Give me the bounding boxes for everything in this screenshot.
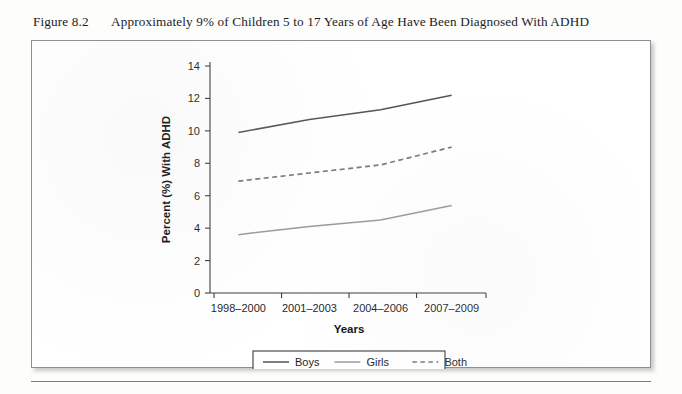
y-tick-label: 10 — [188, 125, 200, 137]
series-line-boys — [238, 95, 451, 132]
legend-label-both: Both — [444, 356, 467, 368]
y-axis-title: Percent (%) With ADHD — [160, 116, 172, 243]
chart-legend: BoysGirlsBoth — [253, 351, 467, 369]
x-tick-label: 2001–2003 — [282, 302, 337, 314]
y-tick-label: 6 — [194, 190, 200, 202]
x-axis-title: Years — [334, 323, 365, 335]
series-line-both — [238, 147, 451, 181]
chart-area: 02468101214 1998–20002001–20032004–20062… — [32, 41, 652, 369]
y-tick-label: 14 — [188, 60, 200, 72]
adhd-line-chart: 02468101214 1998–20002001–20032004–20062… — [32, 41, 652, 369]
figure-panel: 02468101214 1998–20002001–20032004–20062… — [31, 40, 651, 368]
x-axis-ticks: 1998–20002001–20032004–20062007–2009 — [211, 293, 486, 314]
legend-box — [253, 351, 445, 369]
x-tick-label: 2007–2009 — [424, 302, 479, 314]
series-line-girls — [238, 205, 451, 234]
y-axis-ticks: 02468101214 — [188, 60, 210, 299]
y-tick-label: 2 — [194, 255, 200, 267]
footer-rule — [31, 381, 651, 382]
figure-caption: Figure 8.2Approximately 9% of Children 5… — [33, 14, 653, 40]
legend-label-girls: Girls — [366, 356, 389, 368]
figure-number: Figure 8.2 — [33, 14, 111, 30]
figure-title: Approximately 9% of Children 5 to 17 Yea… — [111, 14, 589, 29]
data-series-group — [238, 95, 451, 234]
legend-label-boys: Boys — [295, 356, 320, 368]
y-tick-label: 12 — [188, 92, 200, 104]
x-tick-label: 2004–2006 — [353, 302, 408, 314]
figure-page: Figure 8.2Approximately 9% of Children 5… — [0, 0, 682, 394]
x-tick-label: 1998–2000 — [211, 302, 266, 314]
y-tick-label: 0 — [194, 287, 200, 299]
y-tick-label: 8 — [194, 157, 200, 169]
y-tick-label: 4 — [194, 222, 200, 234]
